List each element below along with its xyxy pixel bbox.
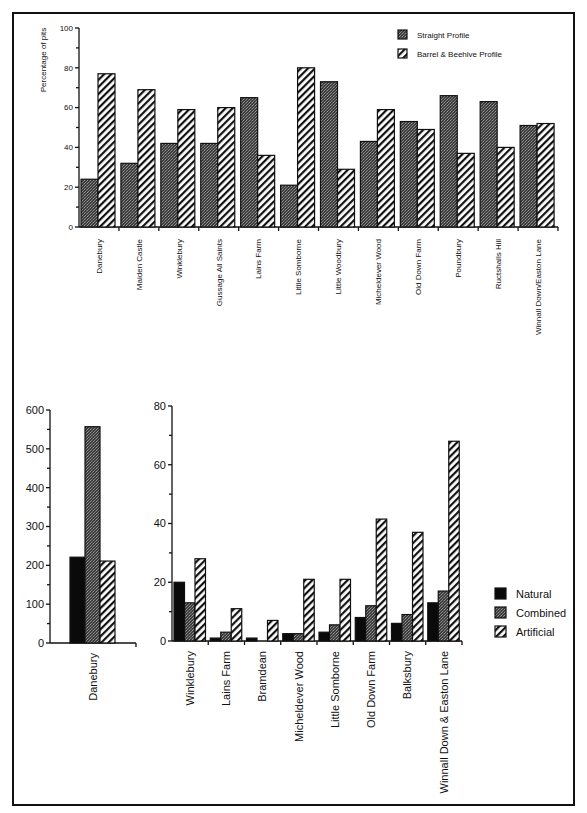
bar-combined xyxy=(402,615,413,641)
legend-swatch-barrel-beehive-profile xyxy=(398,49,407,58)
y-tick-label: 60 xyxy=(64,103,73,112)
bar-barrel-beehive-profile xyxy=(537,124,554,227)
bar-group-little-somborne xyxy=(319,579,351,641)
figure-canvas: 020406080100Percentage of pitsDaneburyMa… xyxy=(0,0,587,813)
bar-group-micheldever-wood xyxy=(283,579,315,641)
bar-group-ructshalls-hill xyxy=(480,102,514,227)
x-category-label: Winnall Down/Easton Lane xyxy=(534,238,543,335)
bar-straight-profile xyxy=(201,143,218,227)
chart-site-counts: 020406080WinkleburyLains FarmBramdeanMic… xyxy=(154,400,566,794)
bar-natural xyxy=(392,623,403,641)
bar-barrel-beehive-profile xyxy=(417,129,434,227)
x-category-label: Winklebury xyxy=(175,239,184,279)
legend-label-artificial: Artificial xyxy=(516,626,555,638)
x-category-label: Old Down Farm xyxy=(414,239,423,295)
bar-combined xyxy=(438,591,449,641)
x-category-label: Lains Farm xyxy=(254,239,263,279)
bar-group-old-down-farm xyxy=(400,122,434,227)
x-category-label: Little Woodbury xyxy=(334,239,343,294)
y-tick-label: 600 xyxy=(26,404,44,416)
x-category-label: Danebury xyxy=(87,653,99,701)
bar-barrel-beehive-profile xyxy=(377,110,394,227)
legend-swatch-artificial xyxy=(495,626,506,637)
y-tick-label: 80 xyxy=(154,400,166,412)
bar-group-little-somborne xyxy=(281,68,315,227)
legend-bottom: NaturalCombinedArtificial xyxy=(495,588,566,638)
bar-group-gussage-all-saints xyxy=(201,108,235,227)
x-category-label: Ructshalls Hill xyxy=(494,239,503,289)
y-tick-label: 300 xyxy=(26,520,44,532)
bar-natural xyxy=(283,634,294,641)
bar-group-bramdean xyxy=(247,620,279,641)
y-tick-label: 400 xyxy=(26,482,44,494)
bar-combined xyxy=(185,603,196,641)
bar-combined xyxy=(293,634,304,641)
bar-straight-profile xyxy=(360,141,377,227)
bar-straight-profile xyxy=(161,143,178,227)
x-category-label: Winklebury xyxy=(184,651,196,706)
bar-group-winklebury xyxy=(174,559,206,641)
bar-group-poundbury xyxy=(440,96,474,227)
x-category-label: Little Somborne xyxy=(294,238,303,295)
y-axis-label: Percentage of pits xyxy=(39,28,48,92)
chart-pit-profile-percentages: 020406080100Percentage of pitsDaneburyMa… xyxy=(39,24,558,335)
bar-group-winnall-down-easton-lane xyxy=(520,124,554,227)
bar-straight-profile xyxy=(520,126,537,227)
bar-natural xyxy=(210,638,221,641)
bar-barrel-beehive-profile xyxy=(497,147,514,227)
bar-artificial xyxy=(340,579,351,641)
bar-combined xyxy=(366,606,377,641)
bar-artificial xyxy=(413,532,424,641)
bar-artificial xyxy=(268,620,279,641)
x-category-label: Gussage All Saints xyxy=(215,239,224,306)
x-category-label: Danebury xyxy=(95,239,104,274)
bar-straight-profile xyxy=(321,82,338,227)
y-tick-label: 0 xyxy=(38,637,44,649)
bar-artificial xyxy=(449,441,460,641)
x-category-label: Balksbury xyxy=(401,651,413,700)
legend-top: Straight ProfileBarrel & Beehive Profile xyxy=(398,30,502,59)
legend-swatch-natural xyxy=(495,588,506,599)
bar-natural xyxy=(70,557,85,643)
y-tick-label: 40 xyxy=(64,143,73,152)
bar-straight-profile xyxy=(281,185,298,227)
x-category-label: Little Somborne xyxy=(329,651,341,728)
legend-swatch-combined xyxy=(495,607,506,618)
y-tick-label: 80 xyxy=(64,64,73,73)
legend-label-natural: Natural xyxy=(516,588,551,600)
x-category-label: Winnall Down & Easton Lane xyxy=(438,651,450,793)
bar-group-micheldever-wood xyxy=(360,110,394,227)
bar-artificial xyxy=(231,609,242,641)
y-tick-label: 60 xyxy=(154,459,166,471)
bar-artificial xyxy=(100,561,115,643)
bar-straight-profile xyxy=(81,179,98,227)
y-tick-label: 0 xyxy=(160,635,166,647)
bar-group-lains-farm xyxy=(241,98,275,227)
bar-group-maiden-castle xyxy=(121,90,155,227)
bar-straight-profile xyxy=(241,98,258,227)
bar-group-winnall-down-easton-lane xyxy=(428,441,460,641)
bar-barrel-beehive-profile xyxy=(338,169,355,227)
bar-combined xyxy=(85,427,100,643)
chart-danebury-counts: 0100200300400500600Danebury xyxy=(26,404,136,701)
bar-barrel-beehive-profile xyxy=(298,68,315,227)
x-category-label: Micheldever Wood xyxy=(293,651,305,742)
bar-barrel-beehive-profile xyxy=(138,90,155,227)
legend-swatch-straight-profile xyxy=(398,30,407,39)
legend-label-straight-profile: Straight Profile xyxy=(417,31,470,40)
bar-natural xyxy=(355,618,366,642)
y-tick-label: 20 xyxy=(64,183,73,192)
bar-group-little-woodbury xyxy=(321,82,355,227)
y-tick-label: 20 xyxy=(154,576,166,588)
bar-artificial xyxy=(304,579,315,641)
y-tick-label: 0 xyxy=(69,223,74,232)
bar-artificial xyxy=(376,519,387,641)
y-tick-label: 500 xyxy=(26,443,44,455)
y-tick-label: 200 xyxy=(26,559,44,571)
bar-barrel-beehive-profile xyxy=(258,155,275,227)
legend-label-barrel-beehive-profile: Barrel & Beehive Profile xyxy=(417,50,502,59)
bar-group-danebury xyxy=(81,74,115,227)
y-tick-label: 100 xyxy=(60,24,74,33)
bar-group-lains-farm xyxy=(210,609,242,641)
x-category-label: Lains Farm xyxy=(220,651,232,706)
